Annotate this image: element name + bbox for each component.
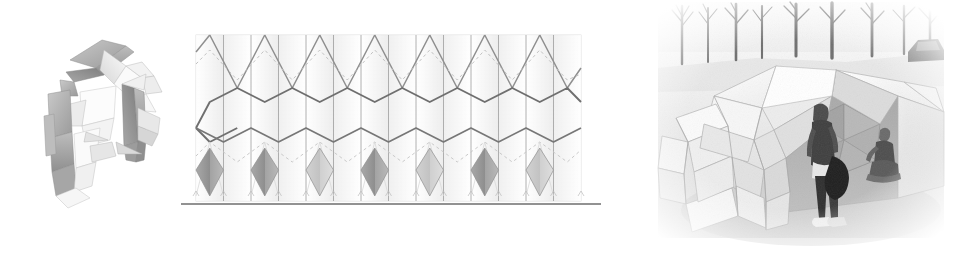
elevation-field (193, 35, 584, 201)
figure-strip: Folded-plate pavilion study Physical fol… (0, 0, 975, 253)
rendering-photo-plate (636, 0, 958, 250)
model-photo-graphic (30, 22, 175, 217)
panel-pavilion-rendering: Perspective rendering of the built pavil… (636, 0, 958, 250)
panel-physical-model-photo: Physical folded paper model photograph (30, 22, 175, 217)
rendering-graphic (636, 0, 958, 250)
panel-facade-elevation: Elevation of folded facade — chevron fol… (181, 30, 601, 212)
elevation-drawing-graphic (181, 30, 601, 212)
